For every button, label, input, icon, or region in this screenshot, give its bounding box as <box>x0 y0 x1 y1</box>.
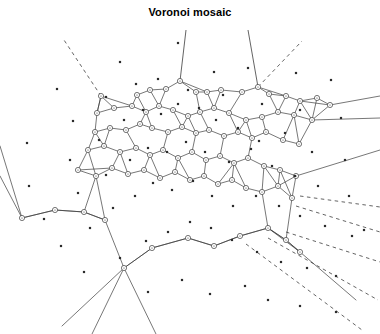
voronoi-edge <box>92 268 124 334</box>
seed-point <box>185 141 187 143</box>
seed-point <box>145 240 147 242</box>
unbounded-cell-ray <box>246 244 362 330</box>
voronoi-edge <box>296 150 380 176</box>
voronoi-vertex-center-dot <box>223 135 224 136</box>
voronoi-vertex-center-dot <box>220 89 221 90</box>
voronoi-vertex-center-dot <box>94 131 95 132</box>
voronoi-vertex-center-dot <box>167 131 168 132</box>
voronoi-vertex-center-dot <box>111 167 112 168</box>
seed-point <box>171 189 173 191</box>
seed-point <box>348 195 350 197</box>
voronoi-vertex-center-dot <box>205 159 206 160</box>
voronoi-vertex-center-dot <box>162 149 163 150</box>
voronoi-vertex-center-dot <box>187 115 188 116</box>
voronoi-vertex-center-dot <box>237 131 238 132</box>
seed-point <box>147 291 149 293</box>
seed-point <box>119 61 121 63</box>
seed-point <box>167 231 169 233</box>
voronoi-vertex-center-dot <box>285 239 286 240</box>
voronoi-edge <box>240 228 268 236</box>
voronoi-vertex-center-dot <box>165 88 166 89</box>
voronoi-vertex-center-dot <box>158 105 159 106</box>
seed-point <box>177 42 179 44</box>
voronoi-vertex-center-dot <box>119 151 120 152</box>
voronoi-vertex-center-dot <box>83 211 84 212</box>
voronoi-vertex-center-dot <box>316 97 317 98</box>
seed-point <box>189 221 191 223</box>
unbounded-ray-layer <box>64 30 380 330</box>
seed-point <box>232 205 234 207</box>
seed-point <box>77 192 79 194</box>
voronoi-edge <box>262 166 264 192</box>
voronoi-vertex-center-dot <box>149 154 150 155</box>
voronoi-vertex-center-dot <box>213 245 214 246</box>
voronoi-edge <box>152 238 188 248</box>
voronoi-vertex-center-dot <box>261 116 262 117</box>
voronoi-edge <box>221 90 242 92</box>
voronoi-vertex-center-dot <box>109 127 110 128</box>
seed-point <box>105 174 107 176</box>
seed-point <box>123 119 125 121</box>
voronoi-edge <box>200 112 209 130</box>
seed-point <box>83 271 85 273</box>
seed-point <box>311 151 313 153</box>
unbounded-cell-ray <box>300 196 380 207</box>
voronoi-vertex-center-dot <box>54 209 55 210</box>
voronoi-vertex-center-dot <box>189 179 190 180</box>
voronoi-vertex-center-dot <box>282 139 283 140</box>
seed-point <box>317 185 319 187</box>
seed-point <box>324 225 326 227</box>
voronoi-vertex-center-dot <box>174 171 175 172</box>
seed-point <box>256 251 258 253</box>
voronoi-vertex-center-dot <box>299 100 300 101</box>
voronoi-vertex-center-dot <box>233 162 234 163</box>
seed-point <box>152 182 154 184</box>
voronoi-vertex-center-dot <box>181 126 182 127</box>
seed-point <box>335 311 337 313</box>
voronoi-edge <box>120 152 128 174</box>
seed-point <box>209 293 211 295</box>
seed-point <box>135 83 137 85</box>
seed-point <box>211 195 213 197</box>
voronoi-vertex-center-dot <box>298 143 299 144</box>
voronoi-vertex-center-dot <box>131 105 132 106</box>
voronoi-edge <box>330 96 380 105</box>
voronoi-edge <box>283 115 294 140</box>
seed-point <box>187 89 189 91</box>
voronoi-vertex-center-dot <box>213 107 214 108</box>
voronoi-vertex-center-dot <box>291 197 292 198</box>
voronoi-vertex-center-dot <box>127 173 128 174</box>
seed-point <box>129 159 131 161</box>
seed-point <box>134 195 136 197</box>
seed-point <box>112 207 114 209</box>
seed-point <box>284 132 286 134</box>
seed-point <box>56 88 58 90</box>
voronoi-edge <box>150 155 160 178</box>
voronoi-vertex-center-dot <box>172 109 173 110</box>
voronoi-vertex-center-dot <box>135 147 136 148</box>
voronoi-vertex-center-dot <box>139 123 140 124</box>
voronoi-vertex-center-dot <box>203 175 204 176</box>
voronoi-edge <box>300 252 356 300</box>
voronoi-vertex-center-dot <box>311 119 312 120</box>
voronoi-vertex-center-dot <box>293 114 294 115</box>
voronoi-vertex-center-dot <box>143 169 144 170</box>
seed-point <box>271 165 273 167</box>
seed-point <box>60 245 62 247</box>
voronoi-vertex-center-dot <box>136 94 137 95</box>
unbounded-cell-ray <box>268 238 378 300</box>
seed-point <box>160 113 162 115</box>
voronoi-vertex-center-dot <box>195 91 196 92</box>
voronoi-vertex-center-dot <box>267 227 268 228</box>
voronoi-vertex-center-dot <box>159 177 160 178</box>
voronoi-edge <box>286 198 292 240</box>
voronoi-vertex-center-dot <box>241 91 242 92</box>
seed-point <box>215 119 217 121</box>
seed-point <box>192 180 194 182</box>
voronoi-vertex-center-dot <box>245 187 246 188</box>
voronoi-vertex-center-dot <box>257 86 258 87</box>
voronoi-vertex-center-dot <box>277 185 278 186</box>
voronoi-edge <box>278 176 296 186</box>
voronoi-edge <box>22 210 55 218</box>
seed-point-layer <box>26 42 365 313</box>
